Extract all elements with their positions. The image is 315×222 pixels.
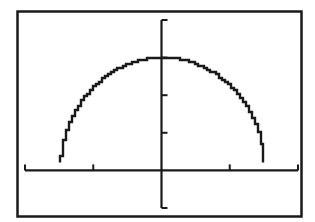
graph-canvas bbox=[0, 0, 315, 222]
calculator-graph-screen bbox=[0, 0, 315, 222]
screen-frame bbox=[18, 12, 302, 217]
